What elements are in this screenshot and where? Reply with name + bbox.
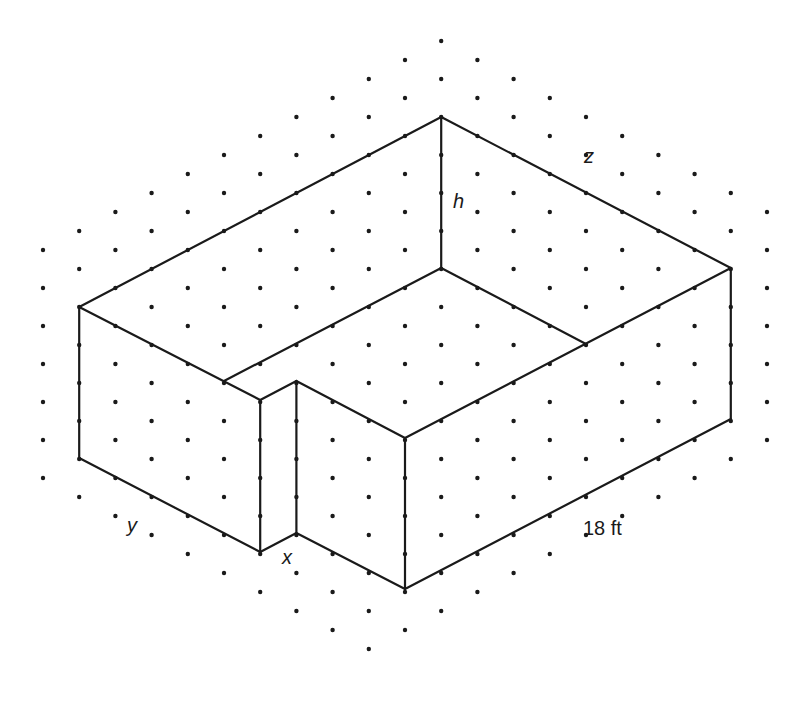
grid-dot	[367, 609, 371, 613]
grid-dot	[294, 609, 298, 613]
grid-dot	[584, 457, 588, 461]
grid-dot	[403, 58, 407, 62]
grid-dot	[729, 191, 733, 195]
grid-dot	[439, 305, 443, 309]
grid-dot	[584, 115, 588, 119]
grid-dot	[41, 286, 45, 290]
grid-dot	[620, 248, 624, 252]
grid-dot	[41, 400, 45, 404]
grid-dot	[584, 267, 588, 271]
grid-dot	[222, 153, 226, 157]
grid-dot	[548, 552, 552, 556]
grid-dot	[41, 362, 45, 366]
grid-dot	[475, 514, 479, 518]
grid-dot	[765, 400, 769, 404]
grid-dot	[765, 210, 769, 214]
grid-dot	[258, 286, 262, 290]
box-edge	[441, 117, 731, 268]
grid-dot	[475, 210, 479, 214]
grid-dot	[511, 495, 515, 499]
grid-dot	[511, 229, 515, 233]
grid-dot	[620, 134, 624, 138]
box-edge	[441, 268, 586, 344]
grid-dot	[258, 134, 262, 138]
grid-dot	[548, 134, 552, 138]
grid-dot	[511, 191, 515, 195]
grid-dot	[439, 77, 443, 81]
grid-dot	[403, 362, 407, 366]
grid-dot	[149, 419, 153, 423]
grid-dot	[149, 457, 153, 461]
grid-dot	[765, 362, 769, 366]
grid-dot	[475, 476, 479, 480]
grid-dot	[584, 229, 588, 233]
grid-dot	[186, 476, 190, 480]
grid-dot	[41, 476, 45, 480]
grid-dot	[620, 362, 624, 366]
grid-dot	[367, 343, 371, 347]
grid-dot	[729, 457, 733, 461]
grid-dot	[403, 400, 407, 404]
grid-dot	[439, 343, 443, 347]
box-edge	[79, 117, 441, 307]
grid-dot	[294, 267, 298, 271]
grid-dot	[548, 248, 552, 252]
grid-dot	[113, 514, 117, 518]
grid-dot	[656, 419, 660, 423]
grid-dot	[367, 77, 371, 81]
grid-dot	[729, 229, 733, 233]
grid-dot	[548, 438, 552, 442]
grid-dot	[692, 362, 696, 366]
grid-dot	[475, 324, 479, 328]
grid-dot	[511, 115, 515, 119]
grid-dot	[403, 324, 407, 328]
grid-dot	[330, 210, 334, 214]
grid-dot	[186, 210, 190, 214]
grid-dot	[367, 115, 371, 119]
isometric-box-diagram	[0, 0, 809, 712]
grid-dot	[149, 533, 153, 537]
label-18ft-front-length: 18 ft	[583, 518, 622, 538]
grid-dot	[186, 172, 190, 176]
grid-dot	[113, 248, 117, 252]
box-edge	[79, 458, 260, 552]
grid-dot	[330, 134, 334, 138]
grid-dot	[475, 58, 479, 62]
grid-dot	[656, 495, 660, 499]
grid-dot	[294, 153, 298, 157]
grid-dot	[367, 457, 371, 461]
grid-dot	[475, 96, 479, 100]
grid-dot	[330, 438, 334, 442]
grid-dot	[222, 419, 226, 423]
grid-dot	[330, 514, 334, 518]
grid-dot	[222, 457, 226, 461]
grid-dot	[548, 476, 552, 480]
grid-dot	[77, 495, 81, 499]
grid-dot	[77, 229, 81, 233]
grid-dot	[222, 343, 226, 347]
grid-dot	[330, 362, 334, 366]
grid-dot	[656, 267, 660, 271]
grid-dot	[511, 457, 515, 461]
grid-dot	[294, 115, 298, 119]
grid-dot	[511, 77, 515, 81]
grid-dot	[475, 248, 479, 252]
box-edge	[260, 381, 296, 400]
grid-dot	[439, 381, 443, 385]
grid-dot	[149, 305, 153, 309]
grid-dot	[439, 609, 443, 613]
grid-dot	[41, 248, 45, 252]
grid-dot	[258, 172, 262, 176]
grid-dot	[149, 191, 153, 195]
box-edge	[405, 419, 731, 589]
grid-dot	[511, 419, 515, 423]
grid-dot	[403, 248, 407, 252]
grid-dot	[367, 381, 371, 385]
grid-dot	[186, 438, 190, 442]
grid-dot	[222, 267, 226, 271]
grid-dot	[367, 533, 371, 537]
grid-dot	[41, 324, 45, 328]
grid-dot	[186, 400, 190, 404]
grid-dot	[186, 324, 190, 328]
grid-dot	[620, 438, 624, 442]
